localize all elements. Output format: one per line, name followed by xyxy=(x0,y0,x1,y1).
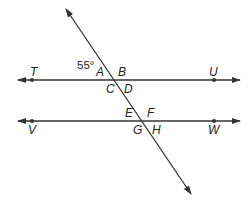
angle-label-h: H xyxy=(152,123,161,137)
angle-label-g: G xyxy=(133,123,142,137)
lines-layer xyxy=(18,9,240,194)
line-transversal xyxy=(66,9,191,194)
point-label-t: T xyxy=(30,65,39,79)
point-label-w: W xyxy=(208,123,221,137)
angle-label-e: E xyxy=(125,106,134,120)
point-label-u: U xyxy=(209,65,218,79)
angle-label-c: C xyxy=(106,82,115,96)
angle-label-f: F xyxy=(147,106,155,120)
angle-label-d: D xyxy=(124,82,133,96)
diagram-canvas: TUVWABCDEFGH55° xyxy=(0,0,252,203)
angle-label-a: A xyxy=(95,65,104,79)
given-angle-measure: 55° xyxy=(77,59,94,71)
points-layer xyxy=(30,78,216,123)
point-label-v: V xyxy=(28,123,37,137)
labels-layer: TUVWABCDEFGH55° xyxy=(28,59,221,137)
angle-label-b: B xyxy=(118,65,126,79)
